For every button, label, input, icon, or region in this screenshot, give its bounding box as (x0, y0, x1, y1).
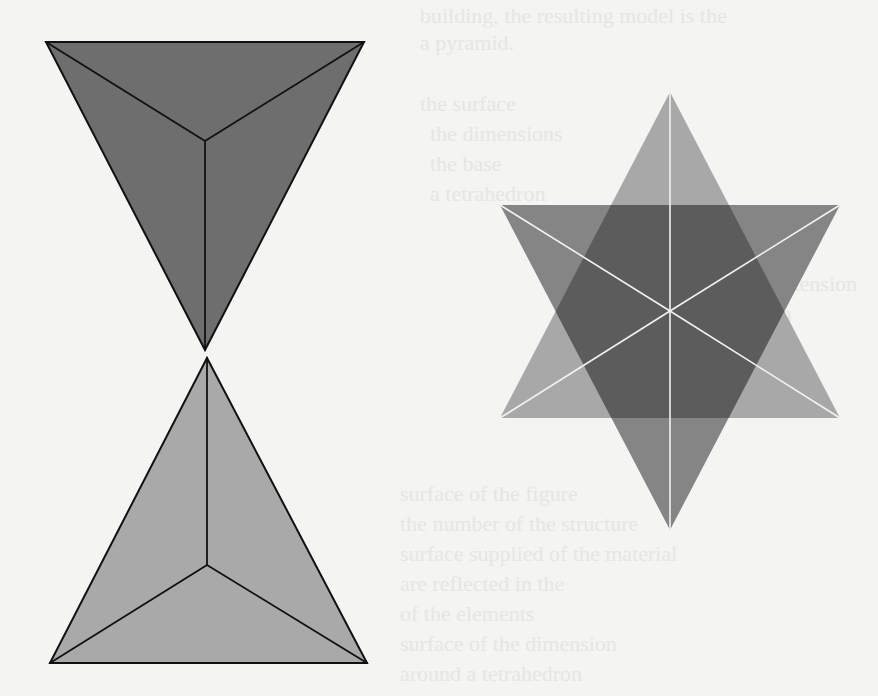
geometry-figure (0, 0, 878, 696)
bottom-tetrahedron-face (50, 358, 367, 663)
top-tetrahedron (46, 42, 364, 350)
bottom-tetrahedron (50, 358, 367, 663)
star-tetrahedron-diagram (500, 92, 840, 530)
double-tetrahedron-diagram (46, 42, 367, 663)
star-spokes (500, 92, 840, 530)
